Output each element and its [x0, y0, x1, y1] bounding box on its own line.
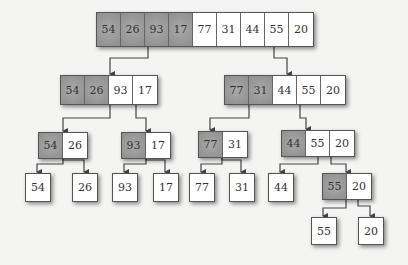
arrow-connector: [63, 103, 110, 131]
list-cell: 93: [113, 174, 137, 201]
list-node-ll: 5426: [38, 132, 88, 159]
list-cell: 31: [223, 132, 247, 157]
list-node-rrrr: 20: [358, 217, 384, 245]
arrow-connector: [280, 155, 318, 172]
arrow-connector: [146, 157, 165, 172]
list-node-lr: 9317: [121, 132, 171, 159]
arrow-connector: [210, 103, 249, 130]
list-node-rrrl: 55: [311, 217, 337, 245]
list-node-lll: 54: [25, 173, 51, 202]
arrow-connector: [136, 103, 146, 131]
list-node-rl: 7731: [198, 131, 248, 158]
arrow-connector: [331, 155, 346, 172]
list-cell: 26: [85, 76, 109, 104]
list-cell: 77: [199, 132, 223, 157]
list-cell: 54: [39, 133, 63, 158]
list-cell: 44: [282, 131, 306, 156]
list-cell: 20: [330, 131, 354, 156]
list-cell: 44: [269, 174, 293, 201]
list-cell: 31: [249, 76, 273, 104]
list-node-l: 54269317: [60, 75, 158, 105]
list-cell: 26: [63, 133, 87, 158]
arrow-connector: [37, 157, 63, 172]
list-node-lrl: 93: [112, 173, 138, 202]
list-cell: 54: [26, 174, 50, 201]
list-cell: 93: [122, 133, 146, 158]
list-cell: 20: [347, 174, 371, 199]
list-cell: 77: [193, 13, 217, 46]
list-cell: 20: [359, 218, 383, 244]
list-cell: 93: [145, 13, 169, 46]
list-node-rrr: 5520: [322, 173, 372, 200]
arrow-connector: [63, 157, 84, 172]
list-cell: 55: [265, 13, 289, 46]
list-node-llr: 26: [72, 173, 98, 202]
list-node-root: 542693177731445520: [96, 12, 314, 47]
list-cell: 17: [133, 76, 157, 104]
list-cell: 54: [97, 13, 121, 46]
list-cell: 55: [306, 131, 330, 156]
list-cell: 20: [321, 76, 345, 104]
list-node-rlr: 31: [229, 173, 255, 202]
list-cell: 77: [225, 76, 249, 104]
list-cell: 44: [241, 13, 265, 46]
list-node-rrl: 44: [268, 173, 294, 202]
arrow-connector: [300, 103, 306, 129]
list-node-rr: 445520: [281, 130, 355, 157]
arrow-connector: [358, 198, 370, 216]
arrow-connector: [222, 156, 241, 172]
list-cell: 17: [146, 133, 170, 158]
merge-sort-diagram: 5426931777314455205426931777314455205426…: [0, 0, 408, 265]
list-cell: 93: [109, 76, 133, 104]
list-cell: 31: [217, 13, 241, 46]
list-cell: 44: [273, 76, 297, 104]
list-cell: 55: [297, 76, 321, 104]
list-cell: 17: [169, 13, 193, 46]
list-node-rll: 77: [189, 173, 215, 202]
list-cell: 17: [154, 174, 178, 201]
arrow-connector: [323, 198, 346, 216]
arrow-connector: [110, 45, 148, 74]
list-cell: 26: [73, 174, 97, 201]
list-cell: 55: [312, 218, 336, 244]
list-cell: 54: [61, 76, 85, 104]
arrow-connector: [124, 157, 146, 172]
list-cell: 20: [289, 13, 313, 46]
arrow-connector: [201, 156, 222, 172]
list-cell: 31: [230, 174, 254, 201]
list-cell: 77: [190, 174, 214, 201]
list-cell: 55: [323, 174, 347, 199]
list-node-lrr: 17: [153, 173, 179, 202]
list-cell: 26: [121, 13, 145, 46]
arrow-connector: [274, 45, 287, 74]
list-node-r: 7731445520: [224, 75, 346, 105]
